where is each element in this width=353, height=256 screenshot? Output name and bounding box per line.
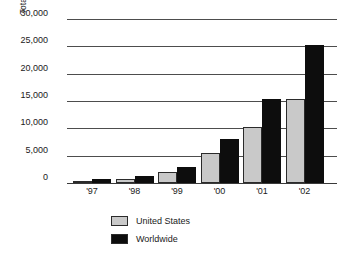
bar-worldwide[interactable] xyxy=(220,139,239,183)
legend-swatch-icon xyxy=(111,216,128,226)
y-axis-tick-label: 15,000 xyxy=(0,90,48,100)
bar-worldwide[interactable] xyxy=(135,176,154,183)
bar-united-states[interactable] xyxy=(243,127,262,183)
y-axis-tick-label: 10,000 xyxy=(0,117,48,127)
bar-united-states[interactable] xyxy=(286,99,305,183)
y-axis-tick-label: 0 xyxy=(0,172,48,182)
bar-group xyxy=(243,19,281,183)
bar-united-states[interactable] xyxy=(73,181,92,183)
y-axis-tick-label: 20,000 xyxy=(0,63,48,73)
bar-united-states[interactable] xyxy=(116,179,135,183)
legend-label: United States xyxy=(136,216,190,226)
legend-label: Worldwide xyxy=(136,234,178,244)
bar-group xyxy=(116,19,154,183)
y-axis-tick-label: 30,000 xyxy=(0,8,48,18)
x-axis-tick-label: '02 xyxy=(276,186,334,196)
y-axis-title: Total Implementations xyxy=(16,0,30,38)
bar-group xyxy=(73,19,111,183)
legend-item[interactable]: United States xyxy=(111,213,241,228)
bar-worldwide[interactable] xyxy=(92,179,111,183)
legend-item[interactable]: Worldwide xyxy=(111,231,241,246)
chart-legend: United StatesWorldwide xyxy=(111,213,241,249)
bar-group xyxy=(201,19,239,183)
legend-swatch-icon xyxy=(111,234,128,244)
gridline xyxy=(67,183,337,184)
bar-group xyxy=(286,19,324,183)
y-axis-tick-label: 5,000 xyxy=(0,145,48,155)
bar-worldwide[interactable] xyxy=(305,45,324,183)
bars-layer xyxy=(67,19,337,183)
plot-area: 30,00025,00020,00015,00010,0005,0000 xyxy=(67,19,337,183)
bar-chart-figure: Total Implementations 30,00025,00020,000… xyxy=(0,0,353,256)
x-axis-tick-labels: '97'98'99'00'01'02 xyxy=(67,186,337,200)
y-axis-tick-label: 25,000 xyxy=(0,35,48,45)
bar-united-states[interactable] xyxy=(201,153,220,183)
bar-united-states[interactable] xyxy=(158,172,177,183)
bar-worldwide[interactable] xyxy=(177,167,196,183)
bar-group xyxy=(158,19,196,183)
bar-worldwide[interactable] xyxy=(262,99,281,183)
